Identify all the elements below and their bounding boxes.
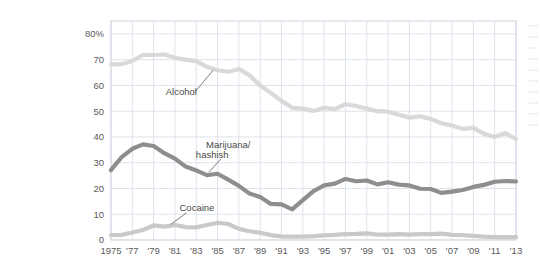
x-tick-label-9: '93 (297, 245, 309, 256)
x-tick-label-1: '77 (126, 245, 138, 256)
y-tick-label-0: 80% (85, 28, 105, 39)
x-tick-label-0: 1975 (100, 245, 121, 256)
x-tick-label-2: '79 (147, 245, 159, 256)
x-tick-label-18: '11 (489, 245, 501, 256)
x-tick-label-12: '99 (361, 245, 373, 256)
plot-background (0, 0, 540, 263)
x-tick-label-6: '87 (233, 245, 245, 256)
x-tick-label-16: '07 (446, 245, 458, 256)
y-tick-label-7: 10 (93, 209, 104, 220)
x-tick-label-10: '95 (318, 245, 330, 256)
y-tick-label-4: 40 (93, 131, 104, 142)
x-tick-label-4: '83 (190, 245, 202, 256)
y-tick-label-8: 0 (99, 234, 104, 245)
y-tick-label-6: 20 (93, 183, 104, 194)
x-tick-label-17: '09 (467, 245, 479, 256)
y-tick-label-3: 50 (93, 106, 104, 117)
line-chart-plot: 80%7060504030201001975'77'79'81'83'85'87… (0, 0, 540, 263)
x-tick-label-11: '97 (339, 245, 351, 256)
x-tick-label-19: '13 (510, 245, 522, 256)
annotation-label-marijuana-line2: hashish (196, 149, 229, 160)
x-tick-label-14: '03 (403, 245, 415, 256)
y-tick-label-2: 60 (93, 80, 104, 91)
x-tick-label-8: '91 (275, 245, 287, 256)
x-tick-label-3: '81 (169, 245, 181, 256)
y-tick-label-1: 70 (93, 54, 104, 65)
annotation-label-cocaine: Cocaine (180, 202, 215, 213)
y-tick-label-5: 30 (93, 157, 104, 168)
x-tick-label-15: '05 (425, 245, 437, 256)
x-tick-label-7: '89 (254, 245, 266, 256)
chart-figure: High school seniors reporting drug use 8… (0, 0, 540, 263)
x-tick-label-13: '01 (382, 245, 394, 256)
x-tick-label-5: '85 (211, 245, 223, 256)
annotation-label-alcohol: Alcohol (166, 86, 197, 97)
